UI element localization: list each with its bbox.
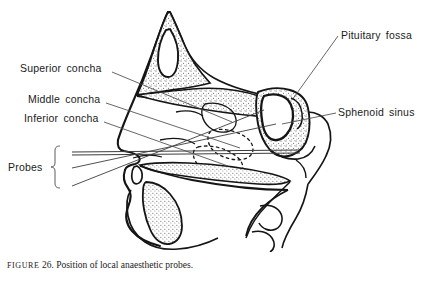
label-superior-concha: Superior concha [20, 62, 101, 74]
label-inferior-concha: Inferior concha [24, 112, 98, 124]
skull-outline-group [118, 12, 331, 252]
middle-meatus-arc [176, 111, 203, 116]
oropharynx-fold [252, 231, 274, 252]
tongue-body [143, 182, 182, 244]
label-middle-concha: Middle concha [28, 93, 100, 105]
figure-page: Superior concha Middle concha Inferior c… [0, 0, 426, 283]
floor-of-mouth [178, 238, 218, 249]
clivus-posterior-contour [308, 112, 330, 184]
probe-line-upper-b [72, 153, 300, 155]
label-sphenoid-sinus: Sphenoid sinus [338, 106, 415, 118]
label-pituitary-fossa: Pituitary fossa [341, 29, 412, 41]
upper-incisor [132, 166, 143, 184]
label-probes: Probes [8, 161, 42, 173]
pharyngeal-wall [282, 184, 308, 248]
figure-caption: FIGURE 26. Position of local anaesthetic… [7, 260, 193, 270]
caption-figure-word: FIGURE [7, 261, 40, 270]
caption-text: Position of local anaesthetic probes. [56, 260, 193, 270]
sphenoid-sinus-cavity [261, 94, 293, 140]
nasopharynx-roof-fold [296, 160, 306, 178]
probes-bracket [51, 146, 60, 188]
caption-number: 26. [42, 260, 54, 270]
leader-pituitary-fossa [292, 36, 338, 100]
